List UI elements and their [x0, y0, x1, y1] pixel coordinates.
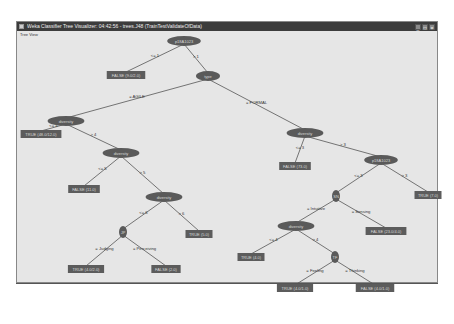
- tree-edge: [208, 79, 305, 130]
- node-label: FALSE (11.0): [72, 187, 96, 192]
- tree-leaf[interactable]: TRUE (4.0): [238, 253, 265, 261]
- tree-edge: [123, 235, 166, 266]
- tree-node[interactable]: diversity: [48, 116, 85, 126]
- node-label: TRUE (7.0): [418, 193, 439, 198]
- node-label: diversity: [298, 131, 313, 136]
- tree-edge: [126, 44, 184, 72]
- node-label: FALSE (9.0/2.0): [112, 73, 141, 78]
- tree-node[interactable]: TF: [331, 251, 339, 263]
- node-label: FALSE (4.0/1.0): [361, 286, 390, 291]
- edge-label: <= 6: [139, 210, 148, 215]
- tree-edge: [164, 200, 199, 231]
- edge-label: = FORMAL: [246, 100, 268, 105]
- tree-leaf[interactable]: FALSE (9.0/2.0): [107, 71, 146, 79]
- node-label: p18A1023: [372, 158, 391, 163]
- tree-edge: [381, 163, 428, 192]
- tree-edge: [121, 156, 164, 194]
- edge-label: <= 3: [354, 173, 363, 178]
- node-label: TRUE (48.0/12.0): [25, 132, 57, 137]
- node-label: TRUE (4.0/1.0): [282, 286, 310, 291]
- node-label: type: [204, 74, 212, 79]
- edge-label: > 6: [179, 211, 186, 216]
- tree-edge: [66, 124, 121, 150]
- tree-node[interactable]: diversity: [278, 221, 315, 231]
- tree-edge: [295, 136, 305, 163]
- tree-edge: [251, 229, 296, 254]
- edge-label: = AGILE: [129, 94, 145, 99]
- tree-node[interactable]: p18A1023: [364, 155, 398, 165]
- tree-leaf[interactable]: FALSE (2.0): [151, 265, 180, 273]
- tree-leaf[interactable]: TRUE (5.0): [186, 230, 213, 238]
- tree-edge: [305, 136, 381, 157]
- tree-leaf[interactable]: FALSE (23.0/4.0): [366, 227, 407, 235]
- edge-label: > 3: [340, 142, 347, 147]
- tree-edge: [295, 260, 335, 285]
- tree-node[interactable]: p18A1023: [167, 36, 201, 46]
- tree-edge: [296, 229, 335, 254]
- tree-canvas[interactable]: <= 1> 1= AGILE= FORMAL<= 4> 4<= 5> 5<= 6…: [0, 0, 454, 324]
- tree-edge: [84, 156, 121, 186]
- edge-label: > 4: [313, 237, 320, 242]
- node-label: diversity: [157, 195, 172, 200]
- node-label: FALSE (2.0): [155, 267, 177, 272]
- node-label: p18A1023: [175, 39, 194, 44]
- tree-leaf[interactable]: TRUE (7.0): [415, 191, 442, 199]
- edge-label: > 4: [91, 132, 98, 137]
- edge-label: <= 3: [296, 145, 305, 150]
- edge-label: = Perceiving: [133, 246, 157, 251]
- tree-edge: [335, 260, 375, 285]
- edge-label: = Feeling: [306, 268, 324, 273]
- node-label: diversity: [114, 151, 129, 156]
- tree-edge: [184, 44, 208, 73]
- tree-leaf[interactable]: TRUE (4.0/2.0): [68, 265, 104, 273]
- edge-label: > 1: [193, 54, 200, 59]
- tree-node[interactable]: diversity: [103, 148, 140, 158]
- tree-node[interactable]: SN: [332, 190, 340, 202]
- tree-edge: [66, 79, 208, 118]
- edge-label: <= 4: [269, 237, 278, 242]
- tree-node[interactable]: diversity: [146, 192, 183, 202]
- node-label: TF: [333, 255, 338, 260]
- edge-label: > 5: [140, 170, 147, 175]
- tree-leaf[interactable]: TRUE (48.0/12.0): [21, 130, 62, 138]
- edge-label: = Judging: [95, 246, 114, 251]
- tree-node[interactable]: JP: [119, 226, 127, 238]
- node-label: diversity: [289, 224, 304, 229]
- node-label: FALSE (23.0/4.0): [371, 229, 402, 234]
- tree-edge: [296, 199, 336, 223]
- node-label: SN: [333, 194, 339, 199]
- edge-label: = Sensing: [352, 209, 371, 214]
- edge-label: = Intuitive: [307, 206, 326, 211]
- node-label: FALSE (73.0): [283, 164, 308, 169]
- tree-edge: [123, 200, 164, 229]
- edge-label: = Thinking: [345, 268, 365, 273]
- edge-label: <= 1: [151, 53, 160, 58]
- tree-leaf[interactable]: TRUE (4.0/1.0): [277, 284, 313, 292]
- edge-label: > 3: [402, 173, 409, 178]
- tree-edge: [336, 199, 386, 228]
- tree-edge: [86, 235, 123, 266]
- tree-leaf[interactable]: FALSE (4.0/1.0): [356, 284, 395, 292]
- edge-label: <= 5: [98, 166, 107, 171]
- tree-leaf[interactable]: FALSE (73.0): [279, 162, 311, 170]
- tree-edge: [336, 163, 381, 193]
- tree-node[interactable]: type: [196, 71, 220, 81]
- node-label: TRUE (4.0): [241, 255, 262, 260]
- tree-leaf[interactable]: FALSE (11.0): [68, 185, 100, 193]
- window-bottom-border: [16, 283, 438, 284]
- node-label: TRUE (4.0/2.0): [73, 267, 101, 272]
- tree-node[interactable]: diversity: [287, 128, 324, 138]
- node-label: JP: [121, 230, 126, 235]
- node-label: TRUE (5.0): [189, 232, 210, 237]
- node-label: diversity: [59, 119, 74, 124]
